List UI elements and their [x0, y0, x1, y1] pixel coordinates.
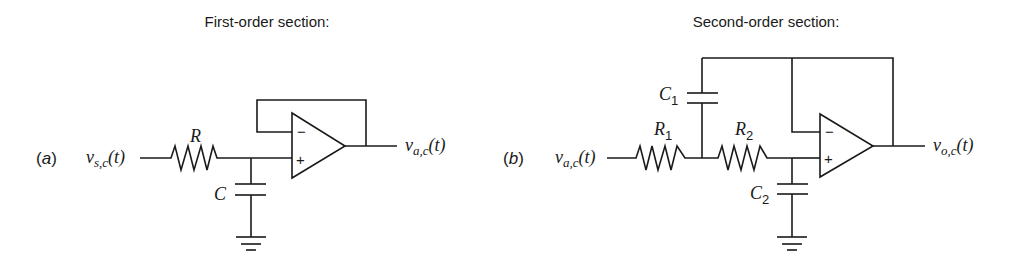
- second-order-title: Second-order section:: [693, 13, 840, 30]
- first-order-title: First-order section:: [204, 13, 329, 30]
- capacitor-c2: [777, 158, 808, 237]
- resistor-r1-label: R1: [653, 119, 672, 143]
- output-label-voc: vo,c(t): [933, 135, 974, 158]
- feedback-wire-a: [257, 100, 366, 146]
- capacitor-c2-label: C2: [750, 183, 769, 207]
- resistor-r: [140, 146, 251, 170]
- opamp-a-plus: +: [296, 151, 305, 168]
- label-a: (a): [36, 149, 57, 168]
- input-label-vac: va,c(t): [555, 147, 596, 170]
- resistor-r2-label: R2: [734, 119, 753, 143]
- resistor-r1: [607, 146, 702, 170]
- capacitor-c1: [687, 58, 718, 158]
- second-order-section: Second-order section: (b) va,c(t) R1 R2 …: [503, 13, 974, 250]
- ground-icon: [236, 237, 266, 250]
- resistor-r-label: R: [189, 126, 201, 146]
- resistor-r2: [702, 146, 792, 170]
- label-b: (b): [503, 149, 524, 168]
- capacitor-c: [235, 158, 266, 237]
- output-label-vac: va,c(t): [405, 135, 446, 158]
- first-order-section: First-order section: (a) vs,c(t) R C − +: [36, 13, 446, 250]
- input-label-vsc: vs,c(t): [86, 147, 125, 170]
- ground-icon: [777, 237, 807, 250]
- capacitor-c-label: C: [214, 184, 227, 204]
- feedback-wire-minus: [792, 58, 820, 132]
- opamp-b-minus: −: [825, 123, 834, 140]
- opamp-b-plus: +: [824, 150, 833, 167]
- filter-circuits-diagram: First-order section: (a) vs,c(t) R C − +: [0, 0, 1014, 266]
- opamp-a-minus: −: [297, 123, 306, 140]
- capacitor-c1-label: C1: [659, 84, 678, 108]
